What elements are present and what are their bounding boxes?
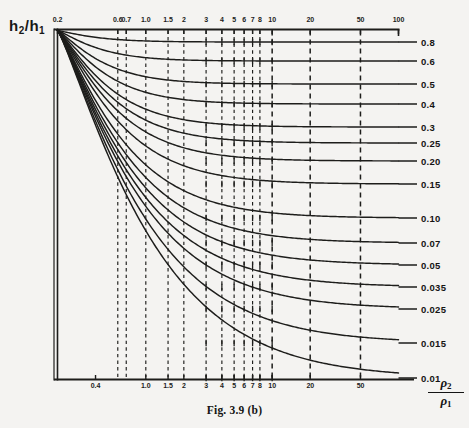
curve-label-0.05: 0.05 bbox=[421, 260, 441, 271]
curve-label-0.025: 0.025 bbox=[421, 304, 446, 315]
curve-gridline-crossmarks bbox=[206, 39, 272, 381]
x-tick-bottom-7: 7 bbox=[251, 382, 255, 389]
x-tick-bottom-5: 5 bbox=[232, 382, 236, 389]
chart-plot-area bbox=[0, 0, 469, 428]
curve-0.6 bbox=[58, 31, 399, 62]
curve-label-0.4: 0.4 bbox=[421, 99, 435, 110]
x-tick-bottom-1.0: 1.0 bbox=[141, 382, 150, 389]
x-tick-top-0.7: 0.7 bbox=[122, 16, 131, 23]
x-tick-top-1.5: 1.5 bbox=[163, 16, 172, 23]
curve-label-0.015: 0.015 bbox=[421, 338, 446, 349]
curve-0.07 bbox=[58, 31, 399, 243]
curve-label-0.25: 0.25 bbox=[421, 138, 441, 149]
curve-label-0.6: 0.6 bbox=[421, 56, 435, 67]
curve-0.8 bbox=[58, 31, 399, 43]
vertical-gridlines bbox=[118, 31, 361, 379]
x-tick-top-1.0: 1.0 bbox=[141, 16, 150, 23]
curve-label-0.07: 0.07 bbox=[421, 238, 441, 249]
curve-label-0.10: 0.10 bbox=[421, 213, 441, 224]
curve-label-0.035: 0.035 bbox=[421, 282, 446, 293]
curve-0.20 bbox=[58, 31, 399, 161]
x-tick-bottom-8: 8 bbox=[258, 382, 262, 389]
x-tick-top-2: 2 bbox=[182, 16, 186, 23]
x-tick-bottom-2: 2 bbox=[182, 382, 186, 389]
x-tick-top-6: 6 bbox=[242, 16, 246, 23]
x-tick-bottom-6: 6 bbox=[242, 382, 246, 389]
x-tick-top-20: 20 bbox=[306, 16, 314, 23]
curve-0.01 bbox=[58, 31, 399, 373]
curve-label-0.8: 0.8 bbox=[421, 37, 435, 48]
figure-caption: Fig. 3.9 (b) bbox=[0, 404, 469, 416]
x-tick-top-3: 3 bbox=[204, 16, 208, 23]
x-axis-label-numerator: ρ2 bbox=[428, 376, 464, 393]
x-tick-bottom-20: 20 bbox=[306, 382, 314, 389]
x-tick-top-50: 50 bbox=[357, 16, 365, 23]
x-tick-top-7: 7 bbox=[251, 16, 255, 23]
x-tick-bottom-4: 4 bbox=[220, 382, 224, 389]
x-tick-top-100: 100 bbox=[393, 16, 404, 23]
x-tick-bottom-50: 50 bbox=[357, 382, 365, 389]
figure-page: h2/h1 0.20.60.71.01.523456781020501000.4… bbox=[0, 0, 469, 428]
x-tick-bottom-3: 3 bbox=[204, 382, 208, 389]
curve-label-0.3: 0.3 bbox=[421, 122, 435, 133]
curve-0.3 bbox=[58, 31, 399, 127]
x-tick-top-0.2: 0.2 bbox=[53, 16, 62, 23]
x-tick-top-10: 10 bbox=[268, 16, 276, 23]
x-tick-bottom-10: 10 bbox=[268, 382, 276, 389]
axis-ticks bbox=[58, 30, 399, 380]
curve-label-0.5: 0.5 bbox=[421, 79, 435, 90]
curve-0.025 bbox=[58, 31, 399, 307]
curve-label-0.20: 0.20 bbox=[421, 156, 441, 167]
x-tick-top-4: 4 bbox=[220, 16, 224, 23]
x-tick-top-5: 5 bbox=[232, 16, 236, 23]
x-tick-bottom-1.5: 1.5 bbox=[163, 382, 172, 389]
x-tick-bottom-0.4: 0.4 bbox=[91, 382, 100, 389]
curve-label-0.15: 0.15 bbox=[421, 179, 441, 190]
curve-family bbox=[58, 31, 418, 379]
x-tick-top-8: 8 bbox=[258, 16, 262, 23]
